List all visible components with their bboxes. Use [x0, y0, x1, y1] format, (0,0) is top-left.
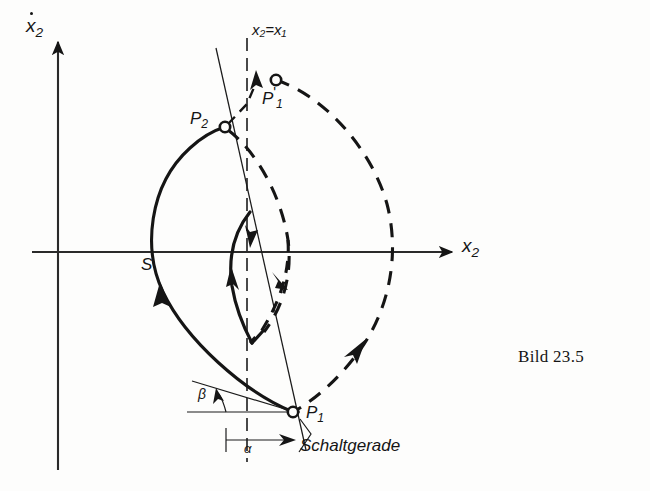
figure-caption: Bild 23.5: [518, 348, 584, 365]
schaltgerade-label: Schaltgerade: [300, 437, 400, 454]
point-label-p1-prime-sub: 1: [276, 97, 283, 111]
point-label-p1-prime: P'1: [262, 85, 283, 110]
point-label-p2: P2: [190, 110, 208, 131]
point-label-p1-sub: 1: [317, 411, 324, 425]
dashed-trajectory-outer: [276, 80, 393, 412]
point-label-p2-sub: 2: [201, 117, 208, 131]
point-label-p1-base: P: [306, 403, 317, 422]
point-label-s: S: [141, 256, 152, 273]
equal-line-label: x₂=x₁: [252, 22, 286, 37]
point-marker-p1: [288, 407, 298, 417]
x-axis-label: x2: [462, 236, 479, 259]
x-axis-label-base: x: [462, 235, 472, 256]
point-label-p1: P1: [306, 404, 324, 425]
point-label-p2-base: P: [190, 109, 201, 128]
tangent-line-p1: [192, 381, 295, 412]
schaltgerade-line: [216, 48, 306, 450]
arrow-solid-outer: [153, 282, 171, 307]
y-axis-label-sub: 2: [36, 25, 44, 40]
axes-group: [32, 42, 452, 470]
figure-bild-23-5: x2 x2 P2 P'1 P1 S x₂=x₁ α β Schaltgerade…: [0, 0, 650, 491]
phase-plane-diagram: [0, 0, 650, 491]
x-axis-label-sub: 2: [472, 245, 480, 260]
point-label-p1-prime-base: P: [262, 89, 273, 108]
alpha-angle-label: α: [244, 442, 251, 455]
y-axis-label: x2: [26, 16, 43, 39]
point-marker-p2: [220, 122, 230, 132]
solid-trajectory-outer: [152, 127, 293, 412]
y-axis-label-base: x: [26, 16, 36, 35]
arrow-dashed-outer: [344, 339, 366, 364]
beta-angle-label: β: [198, 387, 206, 401]
